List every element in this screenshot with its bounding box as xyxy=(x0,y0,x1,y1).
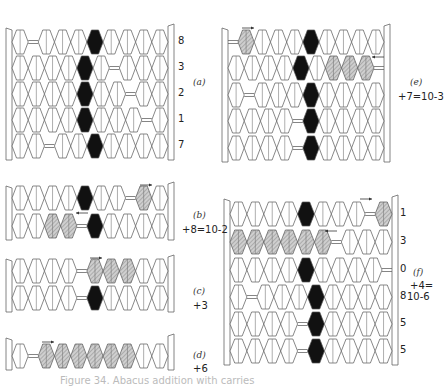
abacus-rod xyxy=(12,344,168,368)
bead-black xyxy=(298,202,315,226)
frame-right-post xyxy=(168,24,174,160)
abacus-rod xyxy=(12,214,168,238)
frame-left-post xyxy=(6,259,12,312)
bead-black xyxy=(298,258,315,282)
frame-left-post xyxy=(6,28,12,160)
panel-expression-f: +4= xyxy=(410,281,433,291)
frame-right-post xyxy=(168,255,174,312)
abacus-rod xyxy=(228,83,384,107)
abacus-panel-e xyxy=(222,24,390,162)
abacus-panel-a xyxy=(6,24,174,160)
panel-tag-e: (e) xyxy=(410,78,422,87)
arrow-right-icon xyxy=(360,198,372,201)
row-digit: 5 xyxy=(400,345,406,355)
panel-tag-b: (b) xyxy=(193,211,206,220)
bead-black xyxy=(303,30,319,54)
bead-black xyxy=(308,285,325,309)
bead-black xyxy=(87,30,103,54)
row-digit: 3 xyxy=(178,62,184,72)
frame-right-post xyxy=(384,24,390,162)
bead-black xyxy=(303,136,319,160)
row-digit: 2 xyxy=(178,88,184,98)
frame-left-post xyxy=(6,186,12,240)
panel-expression-d: +6 xyxy=(193,364,208,374)
abacus-panel-d xyxy=(6,334,174,370)
row-digit: 1 xyxy=(178,114,184,124)
abacus-rod xyxy=(228,56,384,80)
bead-black xyxy=(87,286,103,310)
abacus-rod xyxy=(230,339,392,363)
abacus-panel-f xyxy=(224,195,398,365)
bead-black xyxy=(308,339,325,363)
bead-black xyxy=(87,134,103,158)
bead-black xyxy=(293,56,309,80)
arrow-right-icon xyxy=(242,27,254,30)
row-digit: 8 xyxy=(178,36,184,46)
abacus-rod xyxy=(230,258,392,282)
frame-left-post xyxy=(222,28,228,162)
abacus-rod xyxy=(12,82,168,106)
abacus-rod xyxy=(12,56,168,80)
abacus-rod xyxy=(12,108,168,132)
bead-black xyxy=(77,108,93,132)
abacus-rod xyxy=(228,30,384,54)
frame-left-post xyxy=(6,338,12,370)
arrow-left-icon xyxy=(372,56,384,59)
row-digit: 7 xyxy=(178,140,184,150)
row-digit: 3 xyxy=(400,236,406,246)
bead-black xyxy=(303,83,319,107)
panel-expression2-f: 10-6 xyxy=(407,292,430,302)
abacus-rod xyxy=(230,202,392,226)
bead-black xyxy=(77,186,93,210)
panel-tag-c: (c) xyxy=(193,287,205,296)
frame-right-post xyxy=(168,182,174,240)
abacus-rod xyxy=(228,109,384,133)
row-digit: 8 xyxy=(400,291,406,301)
abacus-rod xyxy=(12,259,168,283)
bead-black xyxy=(77,56,93,80)
panel-expression-b: +8=10-2 xyxy=(182,225,228,235)
abacus-rod xyxy=(12,186,168,210)
abacus-rod xyxy=(230,285,392,309)
abacus-rod xyxy=(230,230,392,254)
row-digit: 5 xyxy=(400,318,406,328)
panel-tag-f: (f) xyxy=(413,268,423,277)
bead-black xyxy=(308,312,325,336)
abacus-rod xyxy=(12,30,168,54)
frame-right-post xyxy=(168,334,174,370)
figure-caption: Figure 34. Abacus addition with carries xyxy=(60,375,254,386)
panel-expression-e: +7=10-3 xyxy=(398,92,444,102)
abacus-panel-b xyxy=(6,182,174,240)
panel-expression-c: +3 xyxy=(193,301,208,311)
frame-right-post xyxy=(392,195,398,365)
row-digit: 0 xyxy=(400,264,406,274)
panel-tag-a: (a) xyxy=(193,78,205,87)
row-digit: 1 xyxy=(400,208,406,218)
panel-tag-d: (d) xyxy=(193,351,206,360)
arrow-left-icon xyxy=(76,212,88,215)
abacus-rod xyxy=(230,312,392,336)
abacus-rod xyxy=(228,136,384,160)
bead-black xyxy=(303,109,319,133)
bead-black xyxy=(77,82,93,106)
abacus-panel-c xyxy=(6,255,174,312)
bead-black xyxy=(87,214,103,238)
abacus-rod xyxy=(12,134,168,158)
arrow-right-icon xyxy=(42,341,54,344)
abacus-rod xyxy=(12,286,168,310)
